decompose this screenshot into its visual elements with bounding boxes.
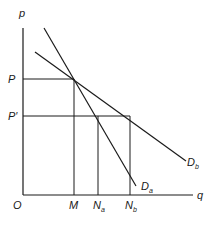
quantity-label-Nb: N b bbox=[125, 199, 137, 213]
demand-curve-Da bbox=[44, 28, 136, 186]
quantity-label-Nb-sub: b bbox=[133, 206, 137, 213]
quantity-label-Na-sub: a bbox=[101, 206, 105, 213]
curve-label-Db-sub: b bbox=[195, 163, 199, 170]
curve-label-Da: D a bbox=[141, 180, 153, 194]
x-axis-label: q bbox=[197, 189, 204, 201]
curve-label-Da-main: D bbox=[141, 180, 149, 192]
price-label-P-prime: P′ bbox=[8, 110, 18, 122]
demand-curve-Db bbox=[35, 52, 186, 161]
quantity-label-Na-main: N bbox=[93, 199, 101, 211]
curve-label-Da-sub: a bbox=[149, 187, 153, 194]
curve-label-Db: D b bbox=[187, 156, 199, 170]
demand-diagram: p q O P P′ M N a N b D a D b bbox=[0, 0, 208, 226]
quantity-label-M: M bbox=[69, 199, 79, 211]
y-axis-label: p bbox=[18, 7, 25, 19]
quantity-label-Nb-main: N bbox=[125, 199, 133, 211]
origin-label: O bbox=[13, 199, 22, 211]
curve-label-Db-main: D bbox=[187, 156, 195, 168]
price-label-P: P bbox=[8, 73, 16, 85]
quantity-label-Na: N a bbox=[93, 199, 105, 213]
